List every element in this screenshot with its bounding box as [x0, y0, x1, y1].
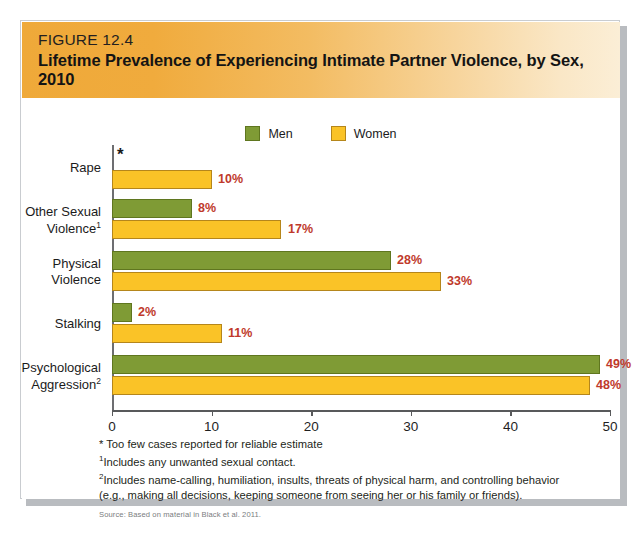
figure-title: Lifetime Prevalence of Experiencing Inti…	[38, 51, 620, 89]
bar-value-physical-violence-men: 28%	[397, 251, 422, 270]
figure-number: FIGURE 12.4	[38, 31, 620, 48]
category-label-physical-violence-line1: Physical	[51, 256, 101, 272]
figure-root: FIGURE 12.4 Lifetime Prevalence of Exper…	[0, 0, 636, 542]
rape-men-no-data-marker: *	[117, 145, 124, 164]
category-label-physical-violence-line2: Violence	[51, 272, 101, 288]
x-tick-label-0: 0	[108, 419, 116, 434]
x-tick-10	[212, 410, 213, 416]
note-asterisk: * Too few cases reported for reliable es…	[99, 437, 609, 453]
bar-other-sexual-violence-women	[112, 220, 281, 239]
bar-value-psychological-aggression-men: 49%	[606, 355, 631, 374]
bar-group-physical-violence: Physical Violence 28% 33%	[112, 251, 610, 297]
category-label-other-sexual-violence-line1: Other Sexual	[25, 204, 101, 220]
figure-header: FIGURE 12.4 Lifetime Prevalence of Exper…	[22, 22, 620, 98]
category-label-stalking: Stalking	[55, 316, 101, 332]
figure-panel: FIGURE 12.4 Lifetime Prevalence of Exper…	[20, 20, 620, 499]
x-tick-0	[112, 410, 113, 416]
bar-physical-violence-men	[112, 251, 391, 270]
x-tick-label-10: 10	[204, 419, 219, 434]
plot-inner: 0 10 20 30 40 50 Rape * 10%	[112, 145, 610, 410]
note-2-line2: (e.g., making all decisions, keeping som…	[99, 488, 609, 504]
x-axis-line	[112, 410, 610, 412]
category-label-other-sexual-violence-line2: Violence1	[25, 220, 101, 238]
figure-notes: * Too few cases reported for reliable es…	[99, 437, 609, 504]
bar-group-psychological-aggression: Psychological Aggression2 49% 48%	[112, 355, 610, 401]
bar-value-physical-violence-women: 33%	[447, 272, 472, 291]
x-tick-50	[610, 410, 611, 416]
bar-other-sexual-violence-men	[112, 199, 192, 218]
figure-source: Source: Based on material in Black et al…	[99, 510, 261, 519]
x-tick-30	[411, 410, 412, 416]
x-tick-40	[510, 410, 511, 416]
x-tick-label-30: 30	[403, 419, 418, 434]
bar-value-stalking-women: 11%	[228, 324, 252, 343]
category-label-physical-violence: Physical Violence	[51, 256, 101, 289]
category-label-psychological-aggression-line1: Psychological	[22, 360, 102, 376]
bar-value-other-sexual-violence-women: 17%	[288, 220, 313, 239]
bar-group-rape: Rape * 10%	[112, 147, 610, 193]
bar-group-other-sexual-violence: Other Sexual Violence1 8% 17%	[112, 199, 610, 245]
note-2-line1: 2Includes name-calling, humiliation, ins…	[99, 471, 609, 489]
category-label-psychological-aggression: Psychological Aggression2	[22, 360, 102, 394]
x-tick-20	[311, 410, 312, 416]
bar-value-other-sexual-violence-men: 8%	[198, 199, 216, 218]
bar-value-psychological-aggression-women: 48%	[596, 376, 621, 395]
bar-stalking-women	[112, 324, 222, 343]
x-tick-label-50: 50	[602, 419, 617, 434]
bar-group-stalking: Stalking 2% 11%	[112, 303, 610, 349]
bar-rape-women	[112, 170, 212, 189]
bar-value-rape-women: 10%	[218, 170, 243, 189]
bar-physical-violence-women	[112, 272, 441, 291]
bar-psychological-aggression-women	[112, 376, 590, 395]
x-tick-label-40: 40	[503, 419, 518, 434]
bar-psychological-aggression-men	[112, 355, 600, 374]
x-tick-label-20: 20	[304, 419, 319, 434]
bar-stalking-men	[112, 303, 132, 322]
category-label-psychological-aggression-line2: Aggression2	[22, 376, 102, 394]
bar-value-stalking-men: 2%	[138, 303, 156, 322]
category-label-other-sexual-violence: Other Sexual Violence1	[25, 204, 101, 238]
note-1: 1Includes any unwanted sexual contact.	[99, 453, 609, 471]
category-label-rape: Rape	[70, 160, 101, 176]
